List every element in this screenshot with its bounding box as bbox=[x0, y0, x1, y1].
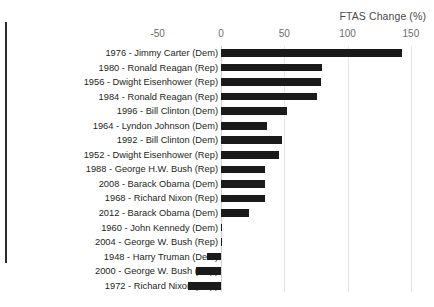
x-tick-label-100: 100 bbox=[339, 28, 356, 39]
bar bbox=[221, 93, 317, 101]
chart-row: 1980 - Ronald Reagan (Rep) bbox=[0, 61, 434, 76]
category-label: 1956 - Dwight Eisenhower (Rep) bbox=[84, 76, 218, 88]
category-label: 1992 - Bill Clinton (Dem) bbox=[117, 134, 218, 146]
chart-row: 1984 - Ronald Reagan (Rep) bbox=[0, 90, 434, 105]
category-label: 1976 - Jimmy Carter (Dem) bbox=[105, 47, 218, 59]
chart-row: 1956 - Dwight Eisenhower (Rep) bbox=[0, 75, 434, 90]
chart-row: 1976 - Jimmy Carter (Dem) bbox=[0, 46, 434, 61]
bar bbox=[221, 238, 222, 246]
chart-row: 2000 - George W. Bush (Rep) bbox=[0, 264, 434, 279]
chart-row: 1988 - George H.W. Bush (Rep) bbox=[0, 162, 434, 177]
bar bbox=[221, 151, 279, 159]
category-label: 1964 - Lyndon Johnson (Dem) bbox=[93, 120, 218, 132]
chart-row: 1972 - Richard Nixon (Rep) bbox=[0, 279, 434, 294]
x-tick-label-0: 0 bbox=[218, 28, 224, 39]
x-tick-label-150: 150 bbox=[403, 28, 420, 39]
bar bbox=[196, 267, 221, 275]
category-label: 1960 - John Kennedy (Dem) bbox=[101, 222, 218, 234]
bar bbox=[188, 282, 221, 290]
x-axis-tick-labels: -50050100150 bbox=[0, 28, 434, 42]
chart-figure: FTAS Change (%) -50050100150 1976 - Jimm… bbox=[0, 0, 434, 307]
bar bbox=[221, 122, 267, 130]
category-label: 2008 - Barack Obama (Dem) bbox=[99, 178, 218, 190]
bar bbox=[221, 166, 265, 174]
bar-rows: 1976 - Jimmy Carter (Dem)1980 - Ronald R… bbox=[0, 46, 434, 293]
chart-row: 1964 - Lyndon Johnson (Dem) bbox=[0, 119, 434, 134]
bar bbox=[221, 224, 222, 232]
x-tick-label-50: 50 bbox=[279, 28, 290, 39]
chart-row: 2004 - George W. Bush (Rep) bbox=[0, 235, 434, 250]
category-label: 1996 - Bill Clinton (Dem) bbox=[117, 105, 218, 117]
bar bbox=[221, 49, 402, 57]
bar bbox=[221, 107, 287, 115]
chart-row: 1948 - Harry Truman (Dem) bbox=[0, 250, 434, 265]
category-label: 1952 - Dwight Eisenhower (Rep) bbox=[84, 149, 218, 161]
bar bbox=[221, 136, 282, 144]
bar bbox=[221, 195, 265, 203]
chart-row: 1992 - Bill Clinton (Dem) bbox=[0, 133, 434, 148]
bar bbox=[221, 180, 265, 188]
category-label: 1984 - Ronald Reagan (Rep) bbox=[99, 91, 218, 103]
chart-row: 1960 - John Kennedy (Dem) bbox=[0, 221, 434, 236]
bar bbox=[207, 253, 221, 261]
chart-row: 2008 - Barack Obama (Dem) bbox=[0, 177, 434, 192]
category-label: 1980 - Ronald Reagan (Rep) bbox=[99, 62, 218, 74]
bar bbox=[221, 78, 321, 86]
chart-row: 1968 - Richard Nixon (Rep) bbox=[0, 191, 434, 206]
plot-area: -50050100150 1976 - Jimmy Carter (Dem)19… bbox=[0, 0, 434, 307]
bar bbox=[221, 64, 322, 72]
category-label: 2004 - George W. Bush (Rep) bbox=[95, 236, 218, 248]
category-label: 2012 - Barack Obama (Dem) bbox=[99, 207, 218, 219]
category-label: 1968 - Richard Nixon (Rep) bbox=[105, 192, 218, 204]
category-label: 1948 - Harry Truman (Dem) bbox=[104, 251, 218, 263]
chart-row: 2012 - Barack Obama (Dem) bbox=[0, 206, 434, 221]
category-label: 1988 - George H.W. Bush (Rep) bbox=[86, 163, 218, 175]
bar bbox=[221, 209, 249, 217]
chart-row: 1996 - Bill Clinton (Dem) bbox=[0, 104, 434, 119]
chart-row: 1952 - Dwight Eisenhower (Rep) bbox=[0, 148, 434, 163]
x-tick-label--50: -50 bbox=[150, 28, 164, 39]
